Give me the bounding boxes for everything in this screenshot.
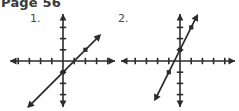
x-axis-left-arrowhead — [10, 58, 17, 65]
x-axis-right-arrowhead — [229, 58, 236, 65]
plotted-point — [189, 25, 193, 29]
y-axis-top-arrowhead — [60, 14, 67, 21]
plotted-point — [61, 70, 65, 74]
y-axis-bottom-arrowhead — [60, 101, 67, 108]
plotted-point — [178, 48, 182, 52]
problem-1: 1. — [6, 10, 119, 111]
coordinate-plane-1 — [6, 10, 119, 111]
y-axis-top-arrowhead — [177, 14, 184, 21]
coordinate-plane-2 — [117, 10, 239, 111]
line-segment — [156, 18, 196, 98]
plotted-point — [83, 48, 87, 52]
y-axis-bottom-arrowhead — [177, 101, 184, 108]
worksheet-page: Page 56 1. 2. — [0, 0, 239, 111]
page-title: Page 56 — [1, 0, 61, 10]
plotted-point — [167, 70, 171, 74]
x-axis-left-arrowhead — [121, 58, 128, 65]
problem-2: 2. — [117, 10, 239, 111]
x-axis-right-arrowhead — [109, 58, 116, 65]
